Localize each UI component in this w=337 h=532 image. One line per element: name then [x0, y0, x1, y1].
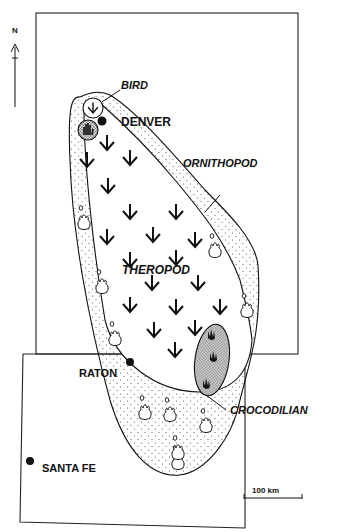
scale-label: 100 km — [252, 487, 279, 495]
city-santa-fe: SANTA FE — [42, 463, 96, 474]
north-label: N — [12, 27, 18, 35]
raton-dot — [126, 358, 134, 366]
crocodilian-label: CROCODILIAN — [230, 405, 308, 416]
theropod-label: THEROPOD — [122, 264, 190, 276]
north-arrow-icon — [11, 44, 19, 107]
city-raton: RATON — [79, 368, 117, 379]
santa-fe-dot — [26, 457, 34, 465]
ornithopod-label: ORNITHOPOD — [183, 158, 258, 169]
city-denver: DENVER — [121, 116, 171, 128]
denver-dot — [98, 117, 107, 126]
bird-label: BIRD — [121, 80, 148, 91]
